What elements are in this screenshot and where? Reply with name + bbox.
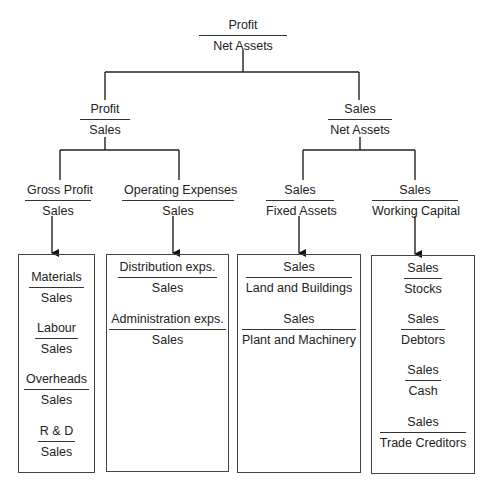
denominator: Net Assets	[193, 36, 293, 54]
ratio-plant-and-machinery: Sales Plant and Machinery	[242, 312, 356, 348]
box-fixed-assets-breakdown: Sales Land and Buildings Sales Plant and…	[237, 254, 361, 473]
numerator: Overheads	[24, 372, 89, 390]
denominator: Cash	[405, 381, 440, 399]
denominator: Plant and Machinery	[242, 330, 356, 348]
numerator: Sales	[246, 260, 352, 278]
ratio-land-and-buildings: Sales Land and Buildings	[246, 260, 352, 296]
numerator: Sales	[372, 183, 458, 201]
numerator: Sales	[266, 183, 334, 201]
numerator: Profit	[80, 102, 130, 120]
denominator: Sales	[25, 201, 91, 219]
denominator: Sales	[29, 288, 84, 306]
level3-ratio-working-capital: Sales Working Capital	[372, 183, 458, 219]
ratio-trade-creditors: Sales Trade Creditors	[380, 415, 466, 451]
numerator: Gross Profit	[25, 183, 91, 201]
level2-ratio-sales-net-assets: Sales Net Assets	[330, 102, 390, 138]
ratio-administration-exps: Administration exps. Sales	[109, 312, 226, 348]
denominator: Fixed Assets	[266, 201, 334, 219]
denominator: Debtors	[401, 330, 445, 348]
ratio-stocks: Sales Stocks	[404, 261, 442, 297]
numerator: Materials	[29, 270, 84, 288]
ratio-labour: Labour Sales	[35, 321, 78, 357]
denominator: Working Capital	[372, 201, 458, 219]
denominator: Sales	[80, 120, 130, 138]
denominator: Sales	[122, 201, 234, 219]
numerator: Profit	[199, 18, 287, 36]
denominator: Trade Creditors	[380, 433, 466, 451]
ratio-materials: Materials Sales	[29, 270, 84, 306]
numerator: Sales	[405, 363, 440, 381]
numerator: Operating Expenses	[122, 183, 234, 201]
ratio-distribution-exps: Distribution exps. Sales	[118, 260, 218, 296]
level2-ratio-profit-sales: Profit Sales	[80, 102, 130, 138]
numerator: Sales	[380, 415, 466, 433]
denominator: Sales	[35, 339, 78, 357]
numerator: Administration exps.	[109, 312, 226, 330]
denominator: Land and Buildings	[246, 278, 352, 296]
numerator: Sales	[242, 312, 356, 330]
denominator: Net Assets	[330, 120, 390, 138]
numerator: Sales	[404, 261, 442, 279]
ratio-debtors: Sales Debtors	[401, 312, 445, 348]
box-gross-profit-breakdown: Materials Sales Labour Sales Overheads S…	[18, 254, 95, 473]
numerator: Sales	[401, 312, 445, 330]
denominator: Sales	[24, 390, 89, 408]
numerator: Distribution exps.	[118, 260, 218, 278]
numerator: R & D	[38, 424, 75, 442]
denominator: Sales	[109, 330, 226, 348]
box-working-capital-breakdown: Sales Stocks Sales Debtors Sales Cash Sa…	[371, 255, 475, 474]
denominator: Stocks	[404, 279, 442, 297]
ratio-overheads: Overheads Sales	[24, 372, 89, 408]
denominator: Sales	[118, 278, 218, 296]
level3-ratio-operating-expenses: Operating Expenses Sales	[122, 183, 234, 219]
numerator: Sales	[328, 102, 392, 120]
root-ratio: Profit Net Assets	[193, 18, 293, 54]
box-operating-expenses-breakdown: Distribution exps. Sales Administration …	[106, 254, 229, 472]
level3-ratio-fixed-assets: Sales Fixed Assets	[266, 183, 334, 219]
ratio-r-and-d: R & D Sales	[38, 424, 75, 460]
ratio-cash: Sales Cash	[405, 363, 440, 399]
denominator: Sales	[38, 442, 75, 460]
level3-ratio-gross-profit: Gross Profit Sales	[25, 183, 91, 219]
numerator: Labour	[35, 321, 78, 339]
